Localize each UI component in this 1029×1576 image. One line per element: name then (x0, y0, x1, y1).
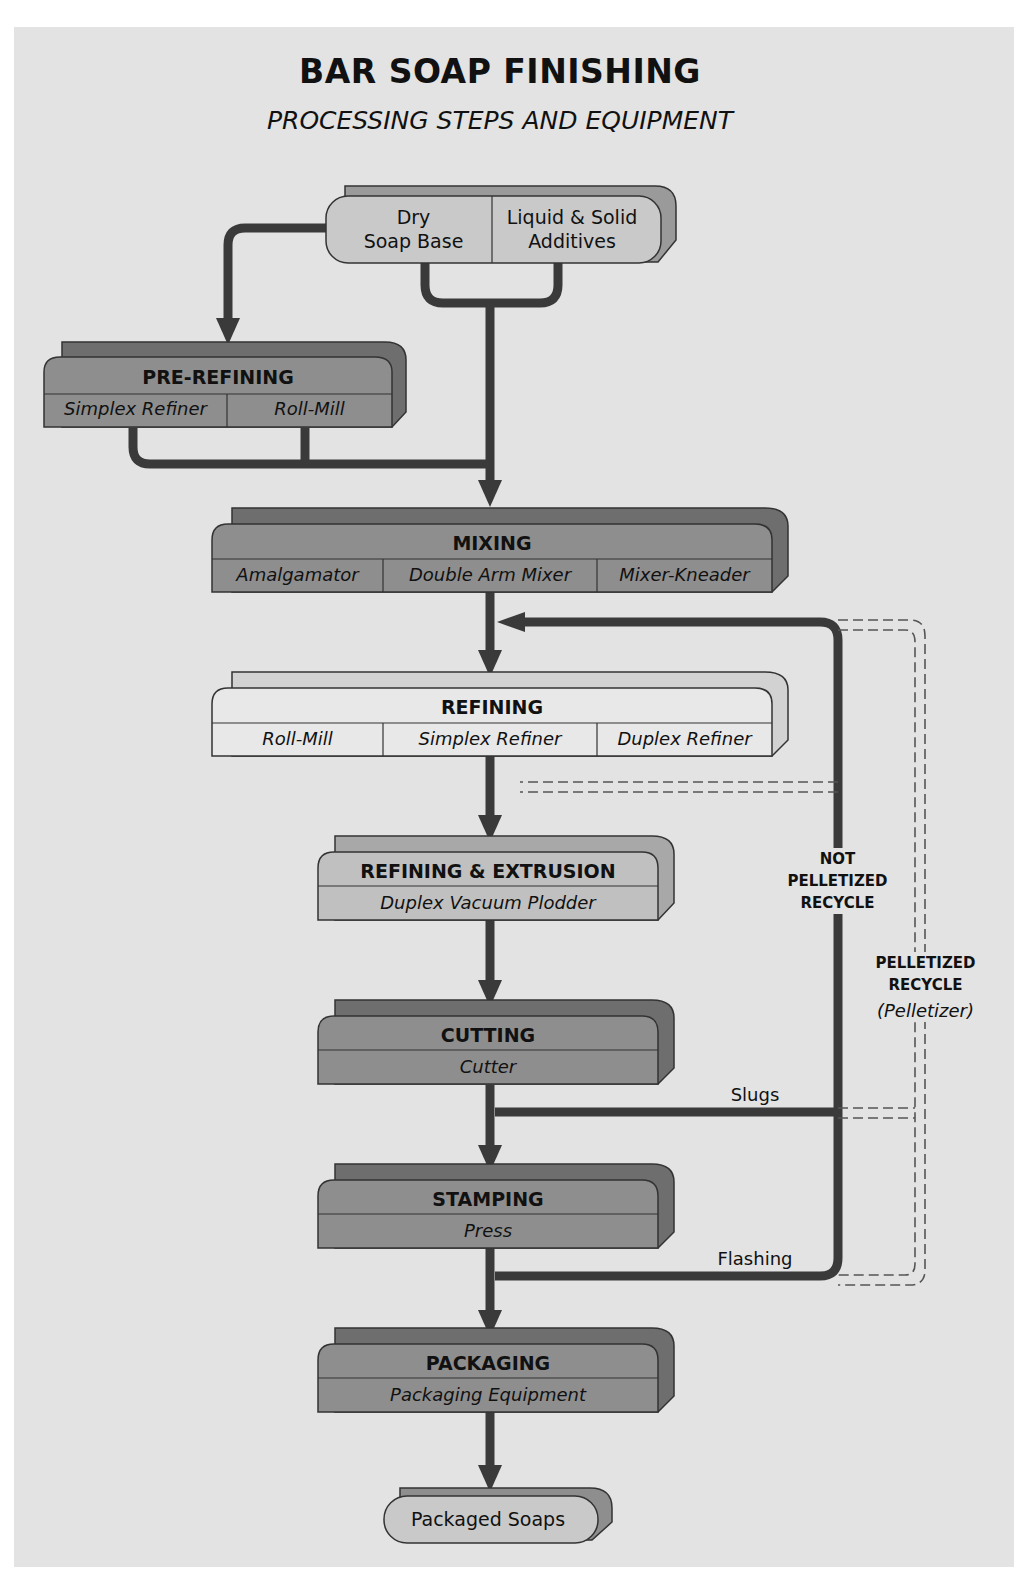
equipment-press: Press (318, 1220, 658, 1241)
page-subtitle: PROCESSING STEPS AND EQUIPMENT (0, 106, 1000, 135)
pelletized-recycle-label: PELLETIZED RECYCLE (Pelletizer) (858, 952, 993, 1022)
equipment-packaging-equipment: Packaging Equipment (318, 1384, 658, 1405)
equipment-duplex-refiner: Duplex Refiner (597, 728, 772, 749)
page-title: BAR SOAP FINISHING (0, 52, 1000, 91)
input-dry-soap-base: Dry Soap Base (335, 205, 492, 253)
equipment-roll-mill: Roll-Mill (227, 398, 392, 419)
output-packaged-soaps: Packaged Soaps (384, 1508, 592, 1530)
equipment-amalgamator: Amalgamator (212, 564, 383, 585)
not-pelletized-recycle-label: NOT PELLETIZED RECYCLE (770, 848, 905, 914)
step-title-refining: REFINING (212, 696, 772, 718)
equipment-duplex-vacuum-plodder: Duplex Vacuum Plodder (318, 892, 658, 913)
step-title-refining-extrusion: REFINING & EXTRUSION (318, 860, 658, 882)
step-title-mixing: MIXING (212, 532, 772, 554)
step-title-stamping: STAMPING (318, 1188, 658, 1210)
equipment-simplex-refiner: Simplex Refiner (44, 398, 227, 419)
equipment-mixer-kneader: Mixer-Kneader (597, 564, 772, 585)
step-title-packaging: PACKAGING (318, 1352, 658, 1374)
not-pelletized-line1: NOT (770, 848, 905, 870)
not-pelletized-line2: PELLETIZED (770, 870, 905, 892)
flashing-label: Flashing (705, 1248, 805, 1269)
slugs-label: Slugs (710, 1084, 800, 1105)
equipment-cutter: Cutter (318, 1056, 658, 1077)
not-pelletized-line3: RECYCLE (770, 892, 905, 914)
equipment-roll-mill: Roll-Mill (212, 728, 383, 749)
input-additives-line2: Additives (492, 229, 652, 253)
input-additives-line1: Liquid & Solid (492, 205, 652, 229)
input-additives: Liquid & Solid Additives (492, 205, 652, 253)
equipment-double-arm-mixer: Double Arm Mixer (383, 564, 597, 585)
input-dry-line2: Soap Base (335, 229, 492, 253)
input-dry-line1: Dry (335, 205, 492, 229)
step-title-cutting: CUTTING (318, 1024, 658, 1046)
step-title-pre-refining: PRE-REFINING (44, 366, 392, 388)
pelletized-line2: RECYCLE (858, 974, 993, 996)
equipment-simplex-refiner: Simplex Refiner (383, 728, 597, 749)
pelletizer-label: (Pelletizer) (858, 1000, 993, 1022)
pelletized-line1: PELLETIZED (858, 952, 993, 974)
